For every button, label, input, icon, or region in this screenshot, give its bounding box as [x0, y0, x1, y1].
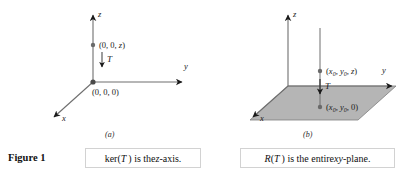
panel-a-x-axis [54, 82, 93, 117]
panel-a-axes [54, 15, 182, 117]
panel-a-upper-point-label: (0, 0, z) [99, 41, 125, 50]
panel-a-z-axis-label: z [98, 10, 101, 19]
panel-b-projected-point-dot [318, 105, 322, 109]
panel-a-x-axis-label: x [62, 114, 66, 123]
panel-b-transform-label: T [325, 82, 330, 91]
panel-a-origin-point-dot [90, 79, 95, 84]
panel-b-upper-point-label: (x0, y0, z) [326, 67, 357, 76]
panel-a-origin-point-label: (0, 0, 0) [92, 88, 119, 97]
panel-b-projected-point-label: (x0, y0, 0) [326, 103, 358, 112]
figure-number-label: Figure 1 [8, 152, 45, 163]
panel-b-y-axis-label: y [382, 66, 386, 75]
panel-b-x-axis-label: x [260, 114, 264, 123]
panel-a-caption: ker(T ) is the z-axis. [85, 148, 201, 168]
panel-b-xy-plane [250, 86, 396, 120]
panel-a-transform-label: T [107, 55, 112, 64]
panel-a-sublabel: (a) [105, 131, 114, 139]
panel-a-y-axis-label: y [184, 62, 188, 71]
panel-b-sublabel: (b) [303, 131, 312, 139]
figure-container: z y x (0, 0, z) (0, 0, 0) T (a) z y x (x… [0, 0, 413, 174]
panel-b-upper-point-dot [318, 69, 322, 73]
panel-b-z-axis-label: z [293, 10, 296, 19]
panel-b-caption: R(T ) is the entire xy-plane. [240, 148, 395, 168]
panel-a-upper-point-dot [91, 43, 95, 47]
